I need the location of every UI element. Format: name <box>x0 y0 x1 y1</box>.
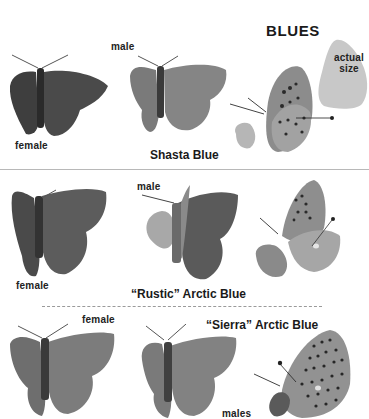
sierra-arctic-blue-male-upperside <box>140 324 240 419</box>
field-guide-page: BLUES actual size female male Shasta Blu… <box>0 0 369 419</box>
species-divider-dashed <box>42 306 322 307</box>
rustic-arctic-blue-male-upperside <box>142 183 242 283</box>
shasta-blue-female-upperside <box>6 50 111 140</box>
species-name-shasta-blue: Shasta Blue <box>150 148 219 162</box>
shasta-blue-male-label: male <box>111 41 135 52</box>
sierra-arctic-blue-underside <box>252 328 369 419</box>
rustic-arctic-blue-female-label: female <box>16 280 49 291</box>
sierra-arctic-blue-female-upperside <box>8 322 118 419</box>
shasta-blue-underside <box>228 62 338 162</box>
species-name-rustic-arctic-blue: “Rustic” Arctic Blue <box>131 287 246 301</box>
section-divider <box>0 169 369 170</box>
rustic-arctic-blue-female-upperside <box>6 184 111 280</box>
sierra-arctic-blue-males-label: males <box>222 408 251 419</box>
shasta-blue-male-upperside <box>128 54 230 136</box>
rustic-arctic-blue-underside <box>252 176 352 286</box>
section-title: BLUES <box>266 22 320 39</box>
shasta-blue-female-label: female <box>15 140 48 151</box>
